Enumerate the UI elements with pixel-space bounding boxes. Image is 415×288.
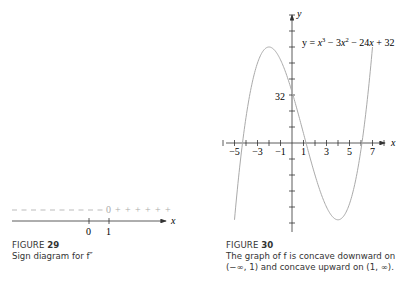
cubic-curve [235, 47, 373, 220]
x-axis-label: x [390, 137, 396, 148]
svg-text:+: + [115, 204, 121, 215]
svg-text:+: + [165, 204, 171, 215]
tick-label-1: 1 [106, 226, 111, 237]
svg-text:−1: −1 [275, 146, 286, 157]
figure-label: FIGURE [12, 240, 44, 250]
figure30-caption: FIGURE 30 The graph of f is concave down… [226, 240, 395, 273]
svg-text:−3: −3 [252, 146, 263, 157]
svg-text:5: 5 [347, 146, 352, 157]
figure30-caption-line1: The graph of f is concave downward on [226, 251, 395, 262]
figure30-caption-line2: (−∞, 1) and concave upward on (1, ∞). [226, 262, 395, 273]
figure29-caption: FIGURE 29 Sign diagram for f″ [12, 240, 93, 262]
positive-signs: ++++++ [115, 204, 171, 215]
figure29-caption-text: Sign diagram for f″ [12, 251, 93, 262]
svg-text:1: 1 [301, 146, 306, 157]
sign-zero: 0 [106, 204, 111, 215]
figure-label: FIGURE [226, 240, 258, 250]
figure-number: 29 [47, 240, 59, 250]
svg-text:+: + [145, 204, 151, 215]
sign-axis-label: x [170, 215, 176, 226]
y-marker-label: 32 [275, 91, 285, 102]
y-axis-label: y [296, 8, 302, 19]
svg-text:+: + [155, 204, 161, 215]
figure30-title: FIGURE 30 [226, 240, 395, 251]
svg-text:−5: −5 [229, 146, 240, 157]
svg-text:7: 7 [370, 146, 375, 157]
svg-text:+: + [135, 204, 141, 215]
equation-label: y = x3 − 3x2 − 24x + 32 [302, 36, 394, 48]
sign-diagram: x 0 1 0 ++++++ [12, 204, 176, 237]
svg-text:+: + [125, 204, 131, 215]
tick-label-0: 0 [86, 226, 91, 237]
figure-number: 30 [261, 240, 273, 250]
figure29-title: FIGURE 29 [12, 240, 93, 251]
cubic-graph: x y −5−3−11357 32 y = x3 − 3x2 − 24x + 3… [223, 8, 396, 232]
svg-text:3: 3 [324, 146, 329, 157]
x-tick-labels: −5−3−11357 [229, 146, 375, 157]
